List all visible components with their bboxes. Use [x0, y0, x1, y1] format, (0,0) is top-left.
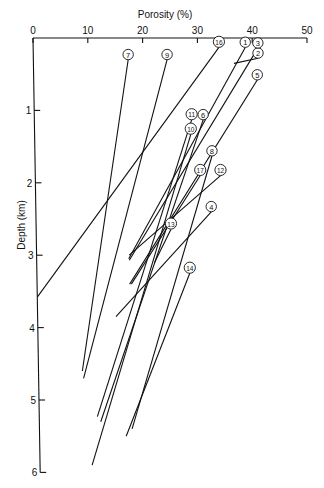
svg-text:12: 12	[217, 167, 225, 174]
svg-text:17: 17	[197, 167, 205, 174]
y-tick-label: 5	[30, 395, 36, 406]
series-label-2: 2	[253, 48, 263, 58]
svg-text:9: 9	[165, 51, 169, 60]
svg-text:5: 5	[255, 71, 259, 80]
series-label-17: 17	[195, 164, 206, 175]
series-line-3	[129, 48, 258, 260]
porosity-depth-chart: 01020304050123456 Porosity (%) Depth (km…	[0, 0, 324, 488]
svg-text:6: 6	[201, 111, 205, 120]
series-label-4: 4	[206, 201, 216, 211]
series-line-14	[126, 273, 190, 436]
svg-text:13: 13	[167, 221, 175, 228]
series-label-6: 6	[198, 109, 208, 119]
series-label-11: 11	[186, 109, 197, 120]
series-line-4	[116, 212, 211, 317]
series-label-14: 14	[184, 262, 195, 273]
data-lines	[37, 47, 258, 465]
x-tick-label: 0	[30, 25, 36, 36]
series-label-3: 3	[253, 38, 263, 48]
series-label-1: 1	[240, 37, 250, 47]
x-tick-label: 50	[301, 25, 313, 36]
series-label-7: 7	[123, 49, 133, 59]
svg-text:14: 14	[186, 265, 194, 272]
series-label-10: 10	[185, 123, 196, 134]
svg-text:1: 1	[243, 38, 247, 47]
x-tick-label: 20	[137, 25, 149, 36]
y-axis-title: Depth (km)	[16, 200, 27, 249]
x-tick-label: 30	[192, 25, 204, 36]
tick-labels: 01020304050123456	[26, 25, 313, 478]
svg-text:11: 11	[188, 111, 195, 118]
series-line-16	[37, 47, 219, 297]
series-label-13: 13	[165, 218, 176, 229]
series-line-7	[82, 60, 128, 371]
series-label-12: 12	[215, 164, 226, 175]
series-label-16: 16	[213, 36, 224, 47]
x-tick-label: 10	[82, 25, 94, 36]
y-tick-label: 4	[29, 323, 35, 334]
svg-text:10: 10	[187, 126, 195, 133]
svg-text:4: 4	[209, 203, 213, 212]
x-axis-title: Porosity (%)	[138, 9, 192, 20]
svg-text:8: 8	[210, 147, 214, 156]
series-line-1	[129, 47, 246, 258]
axes	[33, 38, 307, 472]
svg-text:3: 3	[256, 39, 260, 48]
series-label-5: 5	[252, 70, 262, 80]
y-tick-label: 2	[27, 178, 33, 189]
y-tick-label: 1	[26, 105, 32, 116]
x-tick-label: 40	[247, 25, 259, 36]
series-line-10	[92, 134, 191, 465]
series-label-9: 9	[162, 49, 172, 59]
y-tick-label: 3	[28, 250, 34, 261]
svg-text:16: 16	[215, 39, 223, 46]
y-tick-label: 6	[32, 467, 38, 478]
svg-text:2: 2	[256, 49, 260, 58]
series-line-11	[97, 120, 191, 417]
series-label-8: 8	[207, 146, 217, 156]
svg-text:7: 7	[126, 51, 130, 60]
